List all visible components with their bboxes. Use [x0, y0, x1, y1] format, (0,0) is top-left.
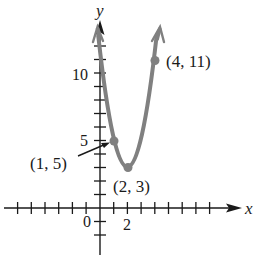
curve-arrowheads	[93, 27, 164, 42]
point-label-1-5: (1, 5)	[30, 154, 67, 173]
x-axis-label: x	[244, 199, 253, 218]
y-axis-label: y	[94, 1, 104, 20]
point-2-3-vertex	[124, 163, 133, 172]
x-tick-label-2: 2	[123, 216, 131, 233]
point-label-2-3: (2, 3)	[113, 177, 150, 196]
parabola-graph: y x 0 2 10 5 (1, 5) (2, 3) (4, 11)	[0, 0, 258, 262]
origin-label: 0	[83, 213, 91, 230]
x-axis	[4, 202, 242, 214]
y-tick-label-5: 5	[80, 132, 88, 149]
point-label-4-11: (4, 11)	[166, 52, 211, 71]
point-1-5	[110, 137, 119, 146]
point-4-11	[151, 56, 160, 65]
parabola-curve	[98, 36, 156, 167]
y-tick-label-10: 10	[72, 66, 88, 83]
